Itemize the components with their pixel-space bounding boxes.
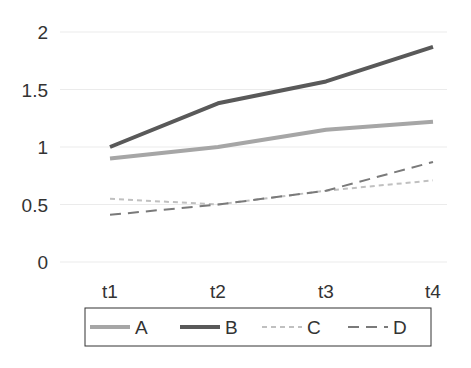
x-tick-label: t3 xyxy=(318,281,334,302)
y-tick-label: 0 xyxy=(37,252,48,273)
series-line-c xyxy=(110,180,433,204)
legend-label-d: D xyxy=(393,317,407,338)
series-line-d xyxy=(110,162,433,215)
y-axis-labels: 00.511.52 xyxy=(22,22,48,273)
x-tick-label: t4 xyxy=(425,281,441,302)
y-tick-label: 0.5 xyxy=(22,195,48,216)
x-tick-label: t1 xyxy=(102,281,118,302)
line-chart: 00.511.52 t1t2t3t4 ABCD xyxy=(0,0,471,368)
series-line-b xyxy=(110,47,433,147)
x-tick-label: t2 xyxy=(210,281,226,302)
y-tick-label: 2 xyxy=(37,22,48,43)
gridlines xyxy=(60,32,447,262)
x-axis-labels: t1t2t3t4 xyxy=(102,281,441,302)
legend-label-c: C xyxy=(307,317,321,338)
legend: ABCD xyxy=(85,308,431,346)
legend-label-a: A xyxy=(135,317,148,338)
y-tick-label: 1.5 xyxy=(22,80,48,101)
y-tick-label: 1 xyxy=(37,137,48,158)
series-lines xyxy=(110,47,433,215)
legend-label-b: B xyxy=(225,317,238,338)
